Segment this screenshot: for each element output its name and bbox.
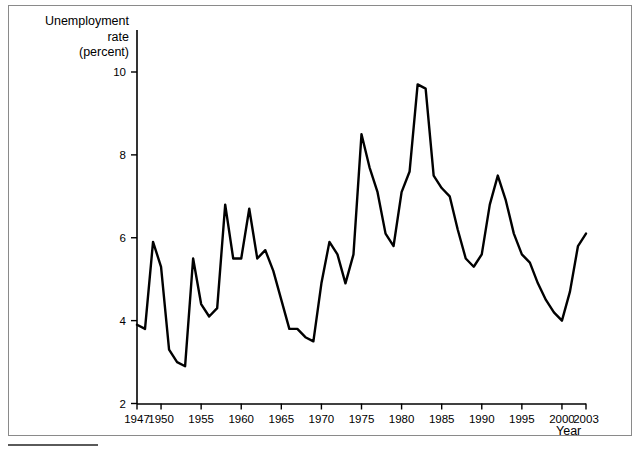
data-series-line (137, 84, 586, 366)
y-axis-ticks: 246810 (113, 66, 137, 410)
y-tick-label: 8 (120, 149, 126, 161)
unemployment-rate-figure: Unemployment rate (percent) Year 246810 … (0, 0, 639, 455)
y-tick-label: 10 (113, 66, 126, 78)
x-tick-label: 2003 (573, 413, 599, 425)
x-tick-label: 1955 (188, 413, 214, 425)
y-tick-label: 6 (120, 232, 126, 244)
x-tick-label: 1947 (124, 413, 150, 425)
y-tick-label: 4 (120, 315, 127, 327)
x-tick-label: 1985 (429, 413, 455, 425)
x-tick-label: 1950 (148, 413, 174, 425)
x-tick-label: 1970 (309, 413, 335, 425)
x-axis-ticks: 1947195019551960196519701975198019851990… (124, 404, 599, 425)
x-tick-label: 1980 (389, 413, 415, 425)
x-tick-label: 1960 (228, 413, 254, 425)
data-series-group (137, 84, 586, 366)
x-tick-label: 2000 (549, 413, 575, 425)
footer-divider-rule (8, 444, 98, 446)
x-tick-label: 1995 (509, 413, 535, 425)
x-tick-label: 1965 (269, 413, 295, 425)
line-chart-plot: 246810 194719501955196019651970197519801… (0, 0, 639, 455)
y-tick-label: 2 (120, 398, 126, 410)
x-tick-label: 1990 (469, 413, 495, 425)
x-tick-label: 1975 (349, 413, 375, 425)
